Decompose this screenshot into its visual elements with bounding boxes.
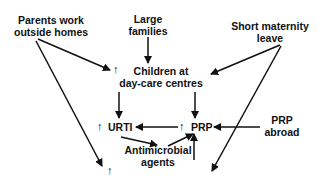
increase-arrow-icon: ↑ — [107, 164, 113, 176]
node-prp-abroad: PRP abroad — [262, 114, 302, 138]
arrow-maternity-to-children — [211, 45, 280, 74]
node-children-day-care: Children at day-care centres — [118, 65, 204, 89]
node-prp: PRP — [191, 121, 213, 133]
node-antimicrobial-agents: Antimicrobial agents — [120, 144, 196, 168]
node-parents: Parents work outside homes — [14, 14, 88, 38]
node-short-maternity: Short maternity leave — [228, 20, 312, 44]
arrow-maternity-to-antimicrobial — [212, 46, 281, 171]
increase-arrow-icon: ↑ — [179, 120, 185, 132]
node-urti: URTI — [108, 121, 133, 133]
arrow-parents-to-antimicrobial — [36, 41, 102, 166]
node-large-families: Large families — [124, 13, 172, 37]
increase-arrow-icon: ↑ — [97, 120, 103, 132]
